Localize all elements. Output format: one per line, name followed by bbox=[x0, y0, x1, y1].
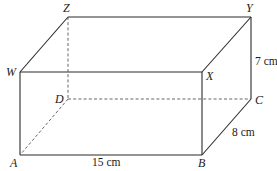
vertex-label-x: X bbox=[205, 69, 214, 83]
vertex-label-d: D bbox=[54, 92, 64, 106]
dimension-length: 15 cm bbox=[92, 156, 120, 168]
edge-DA bbox=[20, 99, 68, 155]
vertex-labels: Z Y W X D C A B bbox=[6, 1, 264, 170]
cuboid-svg: Z Y W X D C A B 15 cm 8 cm 7 cm bbox=[0, 0, 277, 171]
edge-WZ bbox=[20, 17, 68, 72]
vertex-label-z: Z bbox=[63, 1, 70, 15]
vertex-label-y: Y bbox=[246, 1, 254, 15]
visible-edges bbox=[20, 17, 251, 155]
edge-YX bbox=[202, 17, 251, 72]
vertex-label-b: B bbox=[198, 156, 206, 170]
vertex-label-w: W bbox=[6, 65, 17, 79]
dimension-width: 8 cm bbox=[232, 126, 255, 138]
cuboid-diagram: Z Y W X D C A B 15 cm 8 cm 7 cm bbox=[0, 0, 277, 171]
dimension-height: 7 cm bbox=[255, 55, 277, 67]
hidden-edges bbox=[20, 17, 251, 155]
vertex-label-c: C bbox=[255, 93, 264, 107]
vertex-label-a: A bbox=[9, 156, 18, 170]
